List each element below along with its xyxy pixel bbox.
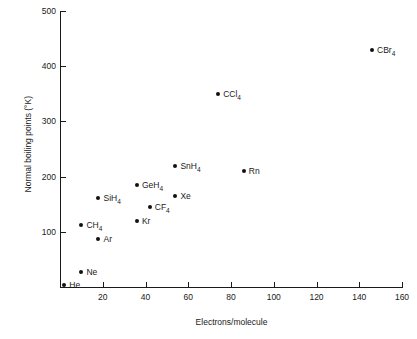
x-tick-80: [231, 282, 232, 287]
data-point-Ar: [96, 237, 100, 241]
data-point-label-CCl4: CCl4: [223, 90, 241, 99]
y-axis-title: Normal boiling points (°K): [24, 64, 33, 224]
y-tick-label-500: 500: [26, 7, 56, 16]
data-point-label-Ne: Ne: [86, 268, 97, 277]
data-point-Xe: [173, 194, 177, 198]
data-point-SnH4: [173, 164, 177, 168]
y-tick-100: [61, 232, 66, 233]
data-point-GeH4: [135, 183, 139, 187]
x-tick-140: [359, 282, 360, 287]
x-tick-100: [274, 282, 275, 287]
data-point-label-Ar: Ar: [103, 235, 112, 244]
y-tick-500: [61, 11, 66, 12]
data-point-label-CF4: CF4: [155, 203, 170, 212]
data-point-label-CBr4: CBr4: [377, 46, 395, 55]
data-point-label-SiH4: SiH4: [103, 194, 120, 203]
y-axis-line: [60, 11, 61, 288]
x-tick-120: [317, 282, 318, 287]
data-point-label-Kr: Kr: [142, 217, 151, 226]
x-tick-label-160: 160: [387, 293, 417, 302]
x-tick-label-40: 40: [131, 293, 161, 302]
data-point-CF4: [148, 205, 152, 209]
x-axis-line: [60, 287, 403, 288]
x-axis-title: Electrons/molecule: [60, 318, 403, 327]
data-point-label-CH4: CH4: [86, 221, 102, 230]
x-tick-label-140: 140: [344, 293, 374, 302]
data-point-SiH4: [96, 196, 100, 200]
data-point-CCl4: [216, 92, 220, 96]
x-tick-label-60: 60: [173, 293, 203, 302]
data-point-Rn: [242, 169, 246, 173]
x-tick-label-20: 20: [88, 293, 118, 302]
data-point-label-SnH4: SnH4: [180, 162, 200, 171]
y-tick-200: [61, 177, 66, 178]
data-point-CH4: [79, 223, 83, 227]
x-tick-label-100: 100: [259, 293, 289, 302]
data-point-label-GeH4: GeH4: [142, 181, 163, 190]
scatter-plot: 100200300400500 20406080100120140160 Nor…: [0, 0, 417, 339]
data-point-Kr: [135, 219, 139, 223]
data-point-label-He: He: [69, 281, 80, 290]
x-tick-label-120: 120: [302, 293, 332, 302]
x-tick-160: [402, 282, 403, 287]
data-point-label-Rn: Rn: [249, 167, 260, 176]
data-point-CBr4: [370, 48, 374, 52]
y-tick-label-100: 100: [26, 228, 56, 237]
data-point-Ne: [79, 270, 83, 274]
x-tick-40: [146, 282, 147, 287]
x-tick-60: [188, 282, 189, 287]
y-tick-300: [61, 121, 66, 122]
y-tick-400: [61, 66, 66, 67]
x-tick-20: [103, 282, 104, 287]
x-tick-label-80: 80: [216, 293, 246, 302]
data-point-label-Xe: Xe: [180, 192, 190, 201]
